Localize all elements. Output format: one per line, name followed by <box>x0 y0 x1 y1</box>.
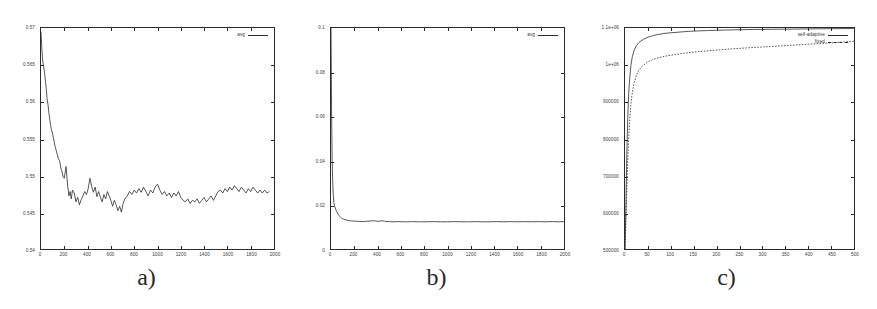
y-tick-mark <box>625 140 628 141</box>
x-tick-mark <box>111 28 112 31</box>
x-tick-mark <box>354 28 355 31</box>
x-tick-mark <box>694 246 695 249</box>
x-tick-mark <box>671 28 672 31</box>
x-tick-mark <box>494 28 495 31</box>
x-tick-label: 1800 <box>246 252 257 258</box>
x-tick-mark <box>64 246 65 249</box>
y-tick-label: 0.555 <box>23 136 35 141</box>
x-tick-mark <box>471 28 472 31</box>
y-tick-mark <box>625 65 628 66</box>
panel-b-plot-area: avg <box>330 27 565 250</box>
x-tick-mark <box>648 28 649 31</box>
y-tick-mark <box>331 206 334 207</box>
y-tick-mark <box>41 214 44 215</box>
x-tick-label: 1400 <box>199 252 210 258</box>
series-line-self-adaptive <box>625 28 854 249</box>
x-tick-mark <box>694 28 695 31</box>
x-tick-mark <box>88 28 89 31</box>
legend-label: fixed <box>815 39 825 45</box>
legend-line-swatch <box>828 40 848 44</box>
panel-b-legend: avg <box>527 32 558 38</box>
x-tick-mark <box>227 28 228 31</box>
x-tick-mark <box>448 28 449 31</box>
y-tick-mark <box>625 177 628 178</box>
x-tick-mark <box>717 28 718 31</box>
x-tick-mark <box>204 28 205 31</box>
y-tick-mark <box>331 117 334 118</box>
x-tick-label: 450 <box>828 252 836 258</box>
x-tick-mark <box>494 246 495 249</box>
y-tick-label: 0.04 <box>316 158 325 163</box>
x-tick-label: 200 <box>712 252 720 258</box>
y-tick-mark <box>851 177 854 178</box>
x-tick-mark <box>471 246 472 249</box>
y-tick-mark <box>271 214 274 215</box>
x-tick-mark <box>424 28 425 31</box>
y-tick-label: 1e+06 <box>606 62 619 67</box>
x-tick-label: 150 <box>689 252 697 258</box>
x-tick-label: 600 <box>107 252 115 258</box>
x-tick-label: 1600 <box>223 252 234 258</box>
x-tick-mark <box>762 28 763 31</box>
x-tick-mark <box>517 246 518 249</box>
y-tick-label: 0.545 <box>23 210 35 215</box>
x-tick-mark <box>541 246 542 249</box>
x-tick-mark <box>517 28 518 31</box>
x-tick-label: 500 <box>851 252 859 258</box>
x-tick-mark <box>831 28 832 31</box>
x-tick-mark <box>378 28 379 31</box>
legend-line-swatch <box>248 33 268 37</box>
y-tick-label: 500000 <box>603 248 619 253</box>
y-tick-label: 0.57 <box>26 25 35 30</box>
x-tick-label: 0 <box>329 252 332 258</box>
legend-entry: avg <box>527 32 558 38</box>
y-tick-label: 0.1 <box>318 25 325 30</box>
x-tick-mark <box>88 246 89 249</box>
x-tick-mark <box>401 28 402 31</box>
y-tick-label: 700000 <box>603 173 619 178</box>
y-tick-label: 0.02 <box>316 203 325 208</box>
panel-a-y-axis-labels: 0.540.5450.550.5550.560.5650.57 <box>0 27 37 250</box>
panel-a-curve-svg <box>41 28 274 249</box>
y-tick-label: 0.08 <box>316 69 325 74</box>
legend-label: avg <box>237 32 245 38</box>
legend-line-swatch <box>828 33 848 37</box>
x-tick-mark <box>448 246 449 249</box>
x-tick-label: 400 <box>83 252 91 258</box>
x-tick-label: 400 <box>805 252 813 258</box>
x-tick-mark <box>785 28 786 31</box>
legend-line-swatch <box>538 33 558 37</box>
x-tick-mark <box>181 246 182 249</box>
y-tick-mark <box>625 102 628 103</box>
y-tick-label: 1.1e+06 <box>602 25 619 30</box>
panel-b-caption: b) <box>290 262 583 292</box>
y-tick-mark <box>851 140 854 141</box>
x-tick-mark <box>541 28 542 31</box>
y-tick-label: 0 <box>322 248 325 253</box>
y-tick-mark <box>271 65 274 66</box>
legend-entry: self-adaptive <box>798 32 848 38</box>
y-tick-mark <box>561 162 564 163</box>
x-tick-mark <box>134 246 135 249</box>
x-tick-label: 1600 <box>513 252 524 258</box>
x-tick-mark <box>808 246 809 249</box>
x-tick-mark <box>158 28 159 31</box>
x-tick-label: 2000 <box>560 252 571 258</box>
y-tick-label: 600000 <box>603 210 619 215</box>
x-tick-mark <box>64 28 65 31</box>
x-tick-mark <box>648 246 649 249</box>
x-tick-mark <box>401 246 402 249</box>
y-tick-mark <box>851 102 854 103</box>
panel-b: 00.020.040.060.080.1 avg 020040060080010… <box>290 0 583 309</box>
x-tick-mark <box>762 246 763 249</box>
panel-c-y-axis-labels: 5000006000007000008000009000001e+061.1e+… <box>580 27 621 250</box>
x-tick-mark <box>785 246 786 249</box>
x-tick-label: 2000 <box>270 252 281 258</box>
x-tick-mark <box>378 246 379 249</box>
x-tick-label: 300 <box>759 252 767 258</box>
y-tick-mark <box>561 117 564 118</box>
y-tick-mark <box>41 102 44 103</box>
x-tick-mark <box>251 246 252 249</box>
x-tick-label: 250 <box>736 252 744 258</box>
x-tick-label: 800 <box>420 252 428 258</box>
